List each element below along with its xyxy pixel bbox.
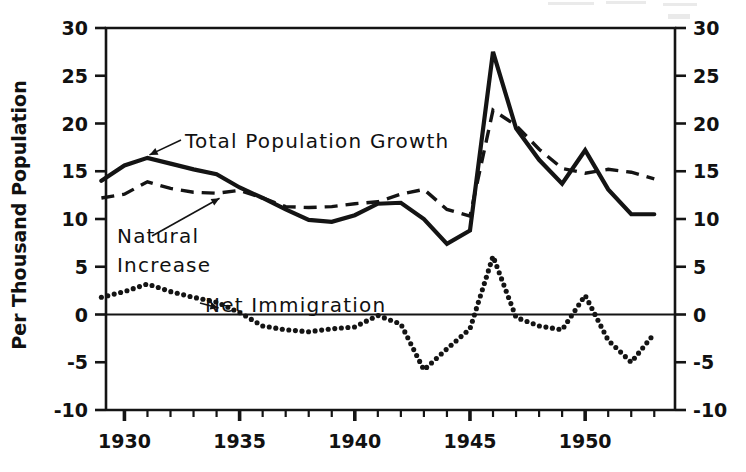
data-dot: [364, 319, 369, 324]
data-dot: [124, 288, 129, 293]
y-tick-label-left: 15: [62, 160, 88, 182]
data-dot: [463, 330, 468, 335]
data-dot: [589, 306, 594, 311]
data-dot: [506, 295, 511, 300]
data-dot: [402, 329, 407, 334]
data-dot: [556, 327, 561, 332]
data-dot: [249, 317, 254, 322]
data-dot: [339, 325, 344, 330]
scan-smudge: [606, 1, 646, 4]
data-dot: [486, 268, 491, 273]
data-dot: [429, 360, 434, 365]
y-tick-label-right: 25: [693, 65, 719, 87]
x-tick-label-1940: 1940: [328, 430, 381, 452]
series-label-net-immigration: Net Immigration: [205, 293, 386, 317]
scan-smudge: [663, 3, 697, 6]
data-dot: [499, 276, 504, 281]
data-dot: [472, 312, 477, 317]
data-dot: [468, 325, 473, 330]
data-dot: [474, 306, 479, 311]
data-dot: [293, 328, 298, 333]
data-dot: [417, 359, 422, 364]
data-dot: [565, 319, 570, 324]
y-tick-label-left: 30: [62, 17, 88, 39]
y-tick-label-right: 15: [693, 160, 719, 182]
data-dot: [640, 345, 645, 350]
y-tick-label-left: 25: [62, 65, 88, 87]
y-tick-label-left: 5: [75, 256, 88, 278]
data-dot: [345, 325, 350, 330]
y-tick-label-left: 20: [62, 113, 88, 135]
data-dot: [399, 323, 404, 328]
data-dot: [394, 320, 399, 325]
y-tick-label-right: 5: [693, 256, 706, 278]
y-tick-label-right: -10: [693, 399, 727, 421]
data-dot: [352, 324, 357, 329]
data-dot: [537, 323, 542, 328]
data-dot: [513, 313, 518, 318]
data-dot: [424, 365, 429, 370]
data-dot: [181, 292, 186, 297]
data-dot: [439, 352, 444, 357]
y-tick-label-left: 0: [75, 304, 88, 326]
series-label-total-population-growth: Total Population Growth: [184, 129, 450, 153]
data-dot: [494, 264, 499, 269]
data-dot: [618, 350, 623, 355]
y-tick-label-left: -10: [54, 399, 88, 421]
data-dot: [306, 329, 311, 334]
data-dot: [508, 301, 513, 306]
y-tick-label-left: -5: [67, 351, 88, 373]
data-dot: [254, 320, 259, 325]
data-dot: [569, 313, 574, 318]
data-dot: [488, 262, 493, 267]
y-tick-label-right: 30: [693, 17, 719, 39]
data-dot: [358, 322, 363, 327]
data-dot: [550, 326, 555, 331]
y-tick-label-left: 10: [62, 208, 88, 230]
data-dot: [299, 329, 304, 334]
data-dot: [156, 285, 161, 290]
series-label-natural-increase-line2: Increase: [117, 253, 211, 277]
x-tick-label-1950: 1950: [559, 430, 612, 452]
data-dot: [454, 338, 459, 343]
data-dot: [388, 318, 393, 323]
data-dot: [476, 300, 481, 305]
population-growth-line-chart: 302520151050-5-10 302520151050-5-10 1930…: [0, 0, 746, 472]
data-dot: [137, 284, 142, 289]
data-dot: [273, 326, 278, 331]
data-dot: [572, 308, 577, 313]
data-dot: [613, 345, 618, 350]
y-tick-label-right: -5: [693, 351, 714, 373]
scan-smudge: [668, 14, 690, 19]
data-dot: [598, 324, 603, 329]
y-axis-title: Per Thousand Population: [8, 80, 30, 349]
data-dot: [583, 294, 588, 299]
data-dot: [175, 291, 180, 296]
data-dot: [531, 321, 536, 326]
data-dot: [504, 289, 509, 294]
x-tick-label-1945: 1945: [444, 430, 497, 452]
data-dot: [194, 295, 199, 300]
data-dot: [484, 275, 489, 280]
data-dot: [604, 335, 609, 340]
data-dot: [518, 317, 523, 322]
data-dot: [632, 356, 637, 361]
data-dot: [497, 270, 502, 275]
data-dot: [480, 287, 485, 292]
data-dot: [313, 328, 318, 333]
data-dot: [470, 319, 475, 324]
data-dot: [99, 295, 104, 300]
data-dot: [628, 359, 633, 364]
data-dot: [576, 303, 581, 308]
data-dot: [511, 307, 516, 312]
data-dot: [168, 289, 173, 294]
data-dot: [131, 286, 136, 291]
data-dot: [280, 327, 285, 332]
data-dot: [260, 323, 265, 328]
data-dot: [162, 287, 167, 292]
data-dot: [586, 300, 591, 305]
data-dot: [592, 312, 597, 317]
data-dot: [405, 335, 410, 340]
y-tick-label-right: 20: [693, 113, 719, 135]
data-dot: [187, 294, 192, 299]
